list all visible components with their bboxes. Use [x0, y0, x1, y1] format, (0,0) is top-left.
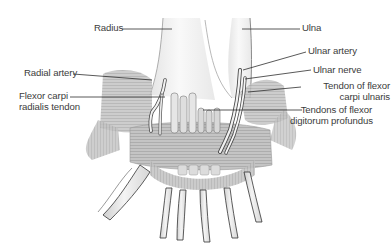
- leader-ulnar-artery: [243, 52, 306, 70]
- label-fdp-line1: Tendons of flexor: [290, 105, 372, 116]
- label-radius-text: Radius: [94, 23, 122, 34]
- label-ulnar-artery-text: Ulnar artery: [308, 46, 357, 57]
- label-radial-artery-text: Radial artery: [24, 68, 77, 79]
- label-fcu-line2: carpi ulnaris: [302, 92, 390, 103]
- wrist-anatomy-diagram: Radius Radial artery Flexor carpi radial…: [0, 0, 391, 246]
- label-flexor-carpi-radialis-tendon: Flexor carpi radialis tendon: [19, 91, 80, 112]
- label-tendon-of-flexor-carpi-ulnaris: Tendon of flexor carpi ulnaris: [302, 81, 390, 102]
- label-fdp-line2: digitorum profundus: [290, 116, 372, 127]
- label-tendons-of-flexor-digitorum-profundus: Tendons of flexor digitorum profundus: [290, 105, 372, 126]
- label-radial-artery: Radial artery: [24, 68, 77, 79]
- leader-ulnar-nerve: [245, 70, 311, 79]
- label-radius: Radius: [94, 23, 122, 34]
- label-fcu-line1: Tendon of flexor: [302, 81, 390, 92]
- label-ulna-text: Ulna: [302, 23, 321, 34]
- label-fcr-line1: Flexor carpi: [19, 91, 80, 102]
- label-ulnar-nerve-text: Ulnar nerve: [313, 65, 362, 76]
- label-ulnar-artery: Ulnar artery: [308, 46, 357, 57]
- radius-bone: [150, 18, 215, 100]
- label-fcr-line2: radialis tendon: [19, 102, 80, 113]
- label-ulnar-nerve: Ulnar nerve: [313, 65, 362, 76]
- label-ulna: Ulna: [302, 23, 321, 34]
